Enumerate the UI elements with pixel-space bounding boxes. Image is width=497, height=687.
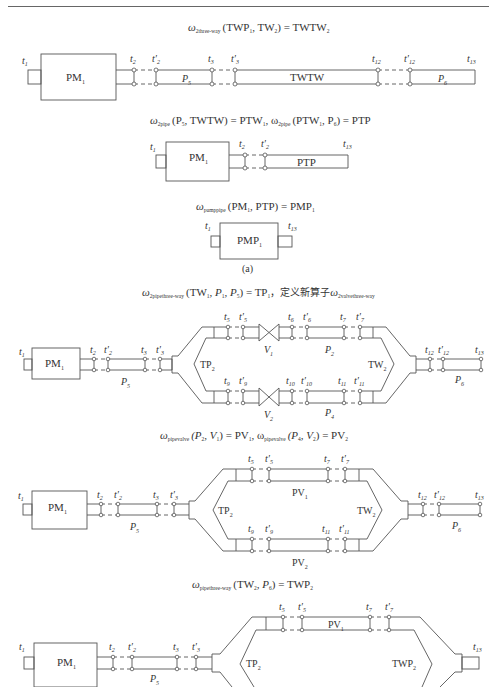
svg-text:t13: t13 bbox=[343, 138, 352, 150]
svg-text:t′2: t′2 bbox=[114, 489, 122, 501]
svg-text:P5: P5 bbox=[149, 673, 159, 686]
svg-text:t1: t1 bbox=[22, 55, 28, 67]
svg-text:TW2: TW2 bbox=[368, 359, 387, 372]
svg-text:P5: P5 bbox=[129, 521, 139, 534]
svg-text:t1: t1 bbox=[19, 641, 25, 653]
formula-5: ωpipevalve(P2, V1) = PV1, ωpipevalve(P4,… bbox=[160, 429, 348, 442]
svg-text:t11: t11 bbox=[338, 375, 346, 387]
svg-text:t7: t7 bbox=[366, 601, 373, 613]
svg-text:t13: t13 bbox=[288, 220, 297, 232]
svg-text:t5: t5 bbox=[248, 453, 254, 465]
svg-text:P6: P6 bbox=[451, 520, 461, 533]
svg-text:t2: t2 bbox=[97, 489, 103, 501]
svg-text:PM1: PM1 bbox=[189, 151, 208, 165]
svg-text:t′2: t′2 bbox=[152, 53, 160, 65]
svg-text:t6: t6 bbox=[288, 311, 294, 323]
svg-text:t′2: t′2 bbox=[261, 138, 269, 150]
svg-text:P4: P4 bbox=[324, 407, 334, 420]
pm1-label: PM1 bbox=[66, 71, 85, 85]
node-labels: t1 t2 t′2 t3 t′3 t12 t′12 t13 bbox=[22, 53, 476, 67]
svg-text:TP2: TP2 bbox=[246, 658, 261, 671]
svg-text:TP2: TP2 bbox=[200, 359, 215, 372]
svg-text:t2: t2 bbox=[239, 138, 245, 150]
svg-text:TWP2: TWP2 bbox=[392, 658, 416, 671]
diagram-5: PM1 TP2 bbox=[18, 453, 484, 570]
svg-text:t5: t5 bbox=[224, 311, 230, 323]
svg-text:t1: t1 bbox=[150, 141, 156, 153]
svg-text:P2: P2 bbox=[324, 344, 334, 357]
svg-text:t12: t12 bbox=[372, 53, 381, 65]
diagram-4: PM1 TP2 bbox=[19, 311, 484, 422]
svg-text:t′11: t′11 bbox=[354, 375, 365, 387]
svg-text:t13: t13 bbox=[473, 641, 482, 653]
formula-6: ωpipethree-way(TW2, P6) = TWP2 bbox=[192, 578, 313, 591]
valve-v1-icon bbox=[259, 324, 279, 341]
svg-text:t13: t13 bbox=[475, 344, 484, 356]
svg-text:t3: t3 bbox=[173, 641, 179, 653]
svg-text:PM1: PM1 bbox=[57, 656, 76, 670]
diagram-2: PM1 PTP t1 t2 t′2 t13 bbox=[150, 138, 352, 181]
diagram-canvas: ω2three-way(TWP1, TW2) = TWTW2 PM1 P5 TW… bbox=[0, 0, 497, 687]
svg-text:t′7: t′7 bbox=[341, 453, 350, 465]
svg-text:t′10: t′10 bbox=[301, 375, 312, 387]
ptp-label: PTP bbox=[297, 156, 316, 168]
svg-text:t′3: t′3 bbox=[170, 489, 178, 501]
svg-text:t9: t9 bbox=[248, 523, 254, 535]
svg-text:t′5: t′5 bbox=[298, 601, 306, 613]
svg-text:PM1: PM1 bbox=[48, 501, 67, 515]
svg-text:TP2: TP2 bbox=[218, 505, 233, 518]
svg-text:t12: t12 bbox=[425, 344, 434, 356]
svg-text:t10: t10 bbox=[286, 375, 295, 387]
svg-text:t′12: t′12 bbox=[434, 489, 445, 501]
svg-text:t′2: t′2 bbox=[104, 344, 112, 356]
pump-inlet bbox=[28, 70, 41, 84]
svg-text:t11: t11 bbox=[322, 523, 330, 535]
diagram-1: PM1 P5 TWTW P6 t1 t2 t′2 t3 t′3 t12 t′1 bbox=[22, 53, 476, 100]
svg-text:t′12: t′12 bbox=[404, 53, 415, 65]
svg-text:t2: t2 bbox=[130, 53, 136, 65]
svg-text:t′3: t′3 bbox=[156, 344, 164, 356]
svg-text:PV1: PV1 bbox=[292, 487, 308, 500]
svg-text:t′3: t′3 bbox=[231, 53, 239, 65]
svg-text:t′6: t′6 bbox=[303, 311, 311, 323]
svg-text:t3: t3 bbox=[153, 489, 159, 501]
svg-text:t7: t7 bbox=[340, 311, 347, 323]
svg-text:t5: t5 bbox=[279, 601, 285, 613]
svg-text:t2: t2 bbox=[90, 344, 96, 356]
svg-text:t′7: t′7 bbox=[356, 311, 365, 323]
svg-text:P6: P6 bbox=[454, 374, 464, 387]
valve-v2-icon bbox=[259, 388, 279, 406]
svg-text:P5: P5 bbox=[120, 376, 130, 389]
svg-text:t1: t1 bbox=[205, 220, 211, 232]
svg-text:PV2: PV2 bbox=[292, 557, 308, 570]
svg-text:t′12: t′12 bbox=[438, 344, 449, 356]
svg-text:t′3: t′3 bbox=[192, 641, 200, 653]
svg-text:t′7: t′7 bbox=[385, 601, 394, 613]
diagram-3: PMP1 t1 t13 (a) bbox=[205, 220, 297, 275]
svg-text:t9: t9 bbox=[224, 375, 230, 387]
svg-text:t3: t3 bbox=[141, 344, 147, 356]
svg-text:t2: t2 bbox=[109, 641, 115, 653]
svg-text:t′2: t′2 bbox=[128, 641, 136, 653]
svg-text:t′9: t′9 bbox=[239, 375, 247, 387]
svg-text:t1: t1 bbox=[19, 346, 25, 358]
formula-3: ωpumppipe(PM1, PTP) = PMP1 bbox=[196, 200, 315, 213]
twtw-label: TWTW bbox=[290, 71, 325, 83]
svg-text:TW2: TW2 bbox=[357, 505, 376, 518]
formula-2: ω2pipe(P5, TWTW) = PTW1, ω2pipe(PTW1, P6… bbox=[150, 114, 371, 127]
svg-text:t3: t3 bbox=[208, 53, 214, 65]
svg-text:t13: t13 bbox=[475, 489, 484, 501]
svg-text:t1: t1 bbox=[18, 490, 24, 502]
svg-text:t′11: t′11 bbox=[339, 523, 350, 535]
svg-text:t12: t12 bbox=[418, 489, 427, 501]
formula-4: ω2pipethree-way(TW1, P1, P5) = TP1，定义新算子… bbox=[142, 286, 375, 299]
caption-a: (a) bbox=[242, 263, 253, 275]
svg-text:t13: t13 bbox=[467, 53, 476, 65]
svg-text:PMP1: PMP1 bbox=[237, 234, 262, 248]
diagram-6: PM1 TP2 PV1 TWP2 P5 t1 t2 bbox=[19, 601, 482, 687]
svg-text:t7: t7 bbox=[324, 453, 331, 465]
svg-text:t′5: t′5 bbox=[265, 453, 273, 465]
svg-text:t′5: t′5 bbox=[239, 311, 247, 323]
svg-text:V1: V1 bbox=[264, 344, 273, 357]
svg-text:V2: V2 bbox=[264, 409, 273, 422]
